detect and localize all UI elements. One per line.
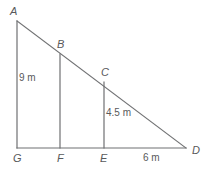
measure-label-AG: 9 m — [19, 73, 36, 83]
vertex-label-D: D — [192, 145, 200, 156]
vertex-label-B: B — [57, 39, 65, 50]
vertex-label-A: A — [10, 6, 18, 17]
measure-label-CE: 4.5 m — [106, 108, 131, 118]
triangle-figure — [0, 0, 210, 172]
vertex-label-C: C — [101, 67, 109, 78]
vertex-label-F: F — [57, 153, 64, 164]
measure-label-ED: 6 m — [143, 153, 160, 163]
vertex-label-G: G — [13, 153, 22, 164]
segment-hypotenuse-AD — [17, 21, 186, 148]
vertex-label-E: E — [100, 153, 108, 164]
geometry-diagram-canvas: A B C D E F G 9 m 4.5 m 6 m — [0, 0, 210, 172]
